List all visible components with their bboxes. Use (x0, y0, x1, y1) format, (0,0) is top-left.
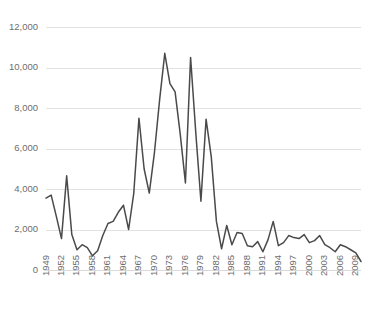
x-tick-label: 1976 (179, 255, 190, 276)
y-tick-label: 8,000 (14, 102, 38, 113)
line-chart: 02,0004,0006,0008,00010,00012,0001949195… (0, 0, 369, 314)
x-tick-label: 1952 (55, 255, 66, 276)
x-tick-label: 1979 (194, 255, 205, 276)
y-tick-label: 4,000 (14, 183, 38, 194)
y-tick-label: 10,000 (9, 61, 38, 72)
y-tick-label: 12,000 (9, 21, 38, 32)
y-tick-label: 2,000 (14, 223, 38, 234)
x-tick-label: 1988 (241, 255, 252, 276)
y-tick-label: 6,000 (14, 142, 38, 153)
x-tick-label: 1970 (148, 255, 159, 276)
x-tick-label: 1994 (272, 255, 283, 276)
x-tick-label: 1949 (40, 255, 51, 276)
y-axis-labels: 02,0004,0006,0008,00010,00012,000 (9, 21, 38, 275)
x-tick-label: 1958 (86, 255, 97, 276)
x-tick-label: 1973 (163, 255, 174, 276)
x-tick-label: 1985 (225, 255, 236, 276)
x-axis-labels: 1949195219551958196119641967197019731976… (40, 255, 361, 276)
x-tick-label: 1961 (101, 255, 112, 276)
x-tick-label: 1955 (70, 255, 81, 276)
x-tick-label: 1991 (256, 255, 267, 276)
x-tick-label: 1997 (287, 255, 298, 276)
chart-canvas: 02,0004,0006,0008,00010,00012,0001949195… (0, 0, 369, 314)
x-tick-label: 1982 (210, 255, 221, 276)
x-tick-label: 1967 (132, 255, 143, 276)
x-tick-label: 2006 (334, 255, 345, 276)
x-tick-label: 2003 (318, 255, 329, 276)
y-tick-label: 0 (33, 264, 38, 275)
x-tick-label: 1964 (117, 255, 128, 276)
x-tick-label: 2000 (303, 255, 314, 276)
